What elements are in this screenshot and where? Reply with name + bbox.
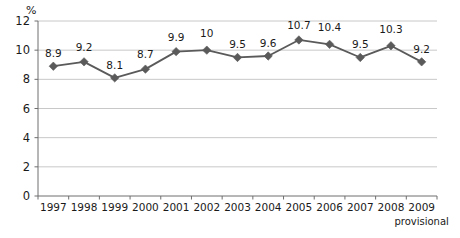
data-point-marker [325,40,333,48]
data-point-label: 10.4 [318,21,341,33]
y-axis-tick-label: 6 [4,102,30,116]
data-point-label: 9.5 [352,38,369,50]
y-axis-tick-label: 12 [4,14,30,28]
data-point-marker [203,46,211,54]
data-point-label: 9.2 [413,43,430,55]
data-point-marker [417,58,425,66]
data-point-label: 8.7 [137,48,154,60]
data-point-label: 8.1 [106,59,123,71]
x-axis-tick-label: 2001 [163,201,190,213]
y-axis-tick-label: 2 [4,160,30,174]
data-point-marker [356,53,364,61]
data-point-marker [172,47,180,55]
data-point-marker [233,53,241,61]
x-axis-tick-label: 2009 [408,201,435,213]
data-point-marker [111,74,119,82]
data-point-label: 9.9 [168,31,185,43]
x-axis-annotation: provisional [394,216,448,227]
data-point-label: 10.7 [287,19,310,31]
data-point-marker [80,58,88,66]
x-axis-tick-label: 1998 [71,201,98,213]
line-chart: % 121086420 1997199819992000200120022003… [0,0,460,238]
data-point-marker [264,52,272,60]
data-point-label: 10 [200,27,213,39]
x-axis-tick-label: 2005 [286,201,313,213]
y-axis-tick-label: 0 [4,189,30,203]
data-point-label: 9.5 [229,38,246,50]
x-axis-tick-label: 1997 [40,201,67,213]
x-axis-tick-label: 2007 [347,201,374,213]
x-axis-tick-label: 2004 [255,201,282,213]
y-axis-tick-label: 8 [4,72,30,86]
data-point-label: 10.3 [379,23,402,35]
data-point-marker [295,36,303,44]
data-point-label: 8.9 [45,47,62,59]
y-axis-tick-label: 10 [4,43,30,57]
x-axis-tick-label: 2008 [378,201,405,213]
data-point-label: 9.2 [76,41,93,53]
data-point-marker [49,62,57,70]
x-axis-tick-label: 2000 [132,201,159,213]
y-axis-tick-label: 4 [4,131,30,145]
data-point-marker [141,65,149,73]
x-axis-tick-label: 2003 [224,201,251,213]
x-axis-tick-label: 2002 [193,201,220,213]
data-point-marker [387,42,395,50]
x-axis-tick-label: 1999 [101,201,128,213]
data-point-label: 9.6 [260,37,277,49]
x-axis-tick-label: 2006 [316,201,343,213]
